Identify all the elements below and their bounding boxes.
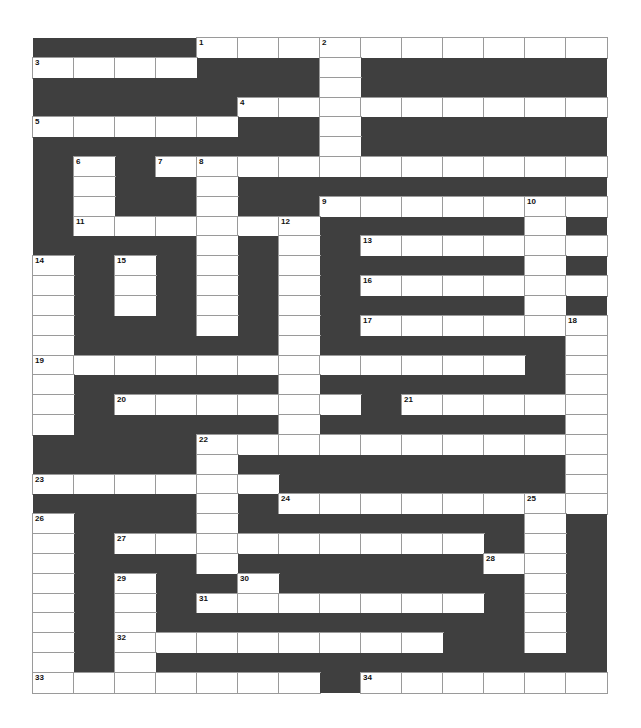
- answer-cell[interactable]: [525, 574, 566, 594]
- answer-cell[interactable]: [484, 157, 525, 177]
- answer-cell[interactable]: [566, 276, 607, 296]
- answer-cell[interactable]: [361, 633, 402, 653]
- answer-cell[interactable]: [443, 356, 484, 376]
- answer-cell[interactable]: [361, 38, 402, 58]
- answer-cell[interactable]: [238, 475, 279, 495]
- answer-cell[interactable]: [156, 395, 197, 415]
- answer-cell[interactable]: [443, 236, 484, 256]
- answer-cell[interactable]: [197, 276, 238, 296]
- answer-cell[interactable]: [197, 356, 238, 376]
- answer-cell[interactable]: 26: [33, 514, 74, 534]
- answer-cell[interactable]: [74, 673, 115, 693]
- answer-cell[interactable]: [279, 98, 320, 118]
- answer-cell[interactable]: 19: [33, 356, 74, 376]
- answer-cell[interactable]: [443, 157, 484, 177]
- answer-cell[interactable]: [361, 98, 402, 118]
- answer-cell[interactable]: [197, 236, 238, 256]
- answer-cell[interactable]: 9: [320, 197, 361, 217]
- answer-cell[interactable]: [443, 534, 484, 554]
- answer-cell[interactable]: [156, 534, 197, 554]
- answer-cell[interactable]: [361, 494, 402, 514]
- answer-cell[interactable]: 6: [74, 157, 115, 177]
- answer-cell[interactable]: [74, 177, 115, 197]
- answer-cell[interactable]: [238, 395, 279, 415]
- answer-cell[interactable]: [525, 673, 566, 693]
- answer-cell[interactable]: [566, 98, 607, 118]
- answer-cell[interactable]: [279, 594, 320, 614]
- answer-cell[interactable]: [484, 673, 525, 693]
- answer-cell[interactable]: [361, 356, 402, 376]
- answer-cell[interactable]: [361, 534, 402, 554]
- answer-cell[interactable]: [525, 316, 566, 336]
- answer-cell[interactable]: [320, 78, 361, 98]
- answer-cell[interactable]: [566, 356, 607, 376]
- answer-cell[interactable]: [115, 58, 156, 78]
- answer-cell[interactable]: [443, 98, 484, 118]
- answer-cell[interactable]: [197, 296, 238, 316]
- answer-cell[interactable]: [320, 58, 361, 78]
- answer-cell[interactable]: [238, 534, 279, 554]
- answer-cell[interactable]: [320, 117, 361, 137]
- answer-cell[interactable]: [33, 554, 74, 574]
- answer-cell[interactable]: 29: [115, 574, 156, 594]
- answer-cell[interactable]: [402, 633, 443, 653]
- answer-cell[interactable]: [361, 594, 402, 614]
- answer-cell[interactable]: [443, 435, 484, 455]
- answer-cell[interactable]: [525, 236, 566, 256]
- answer-cell[interactable]: [197, 197, 238, 217]
- answer-cell[interactable]: [320, 633, 361, 653]
- answer-cell[interactable]: [402, 435, 443, 455]
- answer-cell[interactable]: [320, 534, 361, 554]
- answer-cell[interactable]: [443, 673, 484, 693]
- answer-cell[interactable]: [320, 137, 361, 157]
- answer-cell[interactable]: [197, 514, 238, 534]
- answer-cell[interactable]: [402, 276, 443, 296]
- answer-cell[interactable]: [238, 157, 279, 177]
- answer-cell[interactable]: [279, 336, 320, 356]
- answer-cell[interactable]: 12: [279, 217, 320, 237]
- answer-cell[interactable]: [238, 594, 279, 614]
- answer-cell[interactable]: [525, 256, 566, 276]
- answer-cell[interactable]: [279, 395, 320, 415]
- answer-cell[interactable]: [74, 475, 115, 495]
- answer-cell[interactable]: [402, 594, 443, 614]
- answer-cell[interactable]: [361, 157, 402, 177]
- answer-cell[interactable]: [484, 236, 525, 256]
- answer-cell[interactable]: [115, 594, 156, 614]
- answer-cell[interactable]: [320, 157, 361, 177]
- answer-cell[interactable]: 24: [279, 494, 320, 514]
- answer-cell[interactable]: [115, 356, 156, 376]
- answer-cell[interactable]: [197, 217, 238, 237]
- answer-cell[interactable]: [33, 613, 74, 633]
- answer-cell[interactable]: [484, 435, 525, 455]
- answer-cell[interactable]: [279, 375, 320, 395]
- answer-cell[interactable]: [484, 197, 525, 217]
- answer-cell[interactable]: 8: [197, 157, 238, 177]
- answer-cell[interactable]: 1: [197, 38, 238, 58]
- answer-cell[interactable]: [33, 395, 74, 415]
- answer-cell[interactable]: [402, 236, 443, 256]
- answer-cell[interactable]: [402, 316, 443, 336]
- answer-cell[interactable]: [484, 494, 525, 514]
- answer-cell[interactable]: [279, 435, 320, 455]
- answer-cell[interactable]: [238, 673, 279, 693]
- answer-cell[interactable]: [74, 356, 115, 376]
- answer-cell[interactable]: [115, 117, 156, 137]
- answer-cell[interactable]: [197, 177, 238, 197]
- answer-cell[interactable]: [33, 375, 74, 395]
- answer-cell[interactable]: [279, 157, 320, 177]
- answer-cell[interactable]: [197, 475, 238, 495]
- answer-cell[interactable]: [402, 494, 443, 514]
- answer-cell[interactable]: [197, 455, 238, 475]
- answer-cell[interactable]: 21: [402, 395, 443, 415]
- answer-cell[interactable]: [402, 38, 443, 58]
- answer-cell[interactable]: [402, 98, 443, 118]
- answer-cell[interactable]: [238, 435, 279, 455]
- answer-cell[interactable]: [525, 276, 566, 296]
- answer-cell[interactable]: 14: [33, 256, 74, 276]
- answer-cell[interactable]: [33, 653, 74, 673]
- answer-cell[interactable]: [197, 316, 238, 336]
- answer-cell[interactable]: [238, 633, 279, 653]
- answer-cell[interactable]: 27: [115, 534, 156, 554]
- answer-cell[interactable]: [525, 217, 566, 237]
